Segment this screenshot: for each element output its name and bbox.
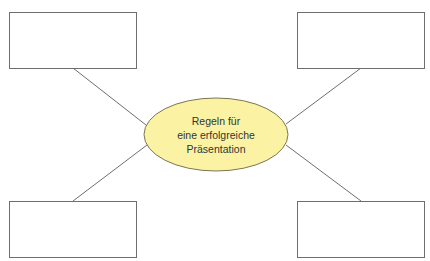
connector-top-right xyxy=(286,68,361,124)
branch-box-bottom-right xyxy=(297,201,425,258)
center-line-1: Regeln für xyxy=(192,114,240,128)
center-line-3: Präsentation xyxy=(187,142,246,156)
branch-box-top-right xyxy=(297,12,425,69)
connector-bottom-left xyxy=(73,145,147,201)
connector-top-left xyxy=(73,68,146,125)
center-topic-label: Regeln für eine erfolgreiche Präsentatio… xyxy=(144,98,288,171)
branch-box-top-left xyxy=(9,12,137,69)
center-line-2: eine erfolgreiche xyxy=(177,128,255,142)
mind-map-diagram: Regeln für eine erfolgreiche Präsentatio… xyxy=(0,0,430,261)
connector-bottom-right xyxy=(286,145,361,201)
branch-box-bottom-left xyxy=(9,201,137,258)
